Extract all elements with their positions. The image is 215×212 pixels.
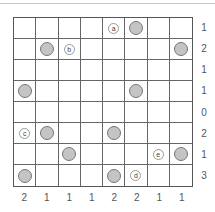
grid-cell[interactable] — [103, 39, 125, 60]
grid-cell[interactable]: b — [59, 39, 81, 60]
row-clue: 2 — [199, 128, 209, 139]
row-clue: 1 — [199, 64, 209, 75]
grid-cell[interactable] — [59, 102, 81, 123]
grid-cell[interactable]: c — [14, 123, 36, 144]
grid-cell[interactable] — [148, 123, 170, 144]
column-clue: 1 — [148, 192, 171, 203]
grid-cell[interactable] — [81, 18, 103, 39]
grid-cell[interactable] — [14, 144, 36, 165]
grid-cell[interactable] — [36, 81, 58, 102]
grid-cell[interactable] — [59, 81, 81, 102]
circled-letter-label: e — [153, 149, 164, 160]
row-clue: 0 — [199, 107, 209, 118]
column-clue: 2 — [126, 192, 149, 203]
gray-disk-icon — [107, 169, 121, 183]
grid-cell[interactable] — [148, 60, 170, 81]
gray-disk-icon — [18, 169, 32, 183]
gray-disk-icon — [40, 42, 54, 56]
grid-cell[interactable] — [81, 39, 103, 60]
grid-cell[interactable] — [103, 144, 125, 165]
grid-cell[interactable] — [170, 60, 192, 81]
grid-cell[interactable] — [36, 39, 58, 60]
row-clue: 3 — [199, 170, 209, 181]
grid-cell[interactable] — [170, 123, 192, 144]
column-clue: 2 — [13, 192, 36, 203]
grid-cell[interactable] — [14, 39, 36, 60]
grid-cell[interactable] — [125, 81, 147, 102]
grid-cell[interactable] — [170, 165, 192, 186]
column-clue: 2 — [103, 192, 126, 203]
grid-cell[interactable] — [125, 39, 147, 60]
grid-cell[interactable] — [59, 165, 81, 186]
grid-cell[interactable] — [103, 123, 125, 144]
grid-cell[interactable] — [14, 165, 36, 186]
row-clue: 2 — [199, 43, 209, 54]
circled-letter-label: a — [108, 23, 119, 34]
grid-cell[interactable] — [81, 81, 103, 102]
grid-cell[interactable] — [148, 81, 170, 102]
grid-cell[interactable] — [148, 18, 170, 39]
grid-cell[interactable] — [103, 102, 125, 123]
column-clue: 1 — [81, 192, 104, 203]
gray-disk-icon — [40, 126, 54, 140]
grid-cell[interactable] — [14, 102, 36, 123]
grid-cell[interactable] — [125, 18, 147, 39]
gray-disk-icon — [129, 21, 143, 35]
gray-disk-icon — [174, 42, 188, 56]
column-clue: 1 — [58, 192, 81, 203]
top-divider — [0, 3, 215, 4]
grid-cell[interactable] — [81, 123, 103, 144]
grid-cell[interactable] — [36, 60, 58, 81]
grid-cell[interactable] — [36, 102, 58, 123]
grid-cell[interactable] — [170, 102, 192, 123]
grid-cell[interactable] — [103, 81, 125, 102]
grid-cell[interactable] — [148, 102, 170, 123]
circled-letter-label: b — [64, 44, 75, 55]
grid-cell[interactable] — [125, 144, 147, 165]
grid-cell[interactable] — [59, 123, 81, 144]
grid-cell[interactable] — [59, 144, 81, 165]
grid-cell[interactable]: d — [125, 165, 147, 186]
gray-disk-icon — [107, 126, 121, 140]
grid-cell[interactable] — [81, 60, 103, 81]
grid-cell[interactable] — [103, 60, 125, 81]
grid-cell[interactable] — [14, 81, 36, 102]
row-clue: 1 — [199, 22, 209, 33]
grid-cell[interactable] — [148, 165, 170, 186]
column-clue: 1 — [171, 192, 194, 203]
grid-cell[interactable] — [170, 81, 192, 102]
gray-disk-icon — [129, 84, 143, 98]
grid-cell[interactable] — [170, 144, 192, 165]
grid-cell[interactable] — [14, 60, 36, 81]
grid-cell[interactable] — [170, 18, 192, 39]
gray-disk-icon — [174, 147, 188, 161]
grid-cell[interactable] — [81, 144, 103, 165]
circled-letter-label: d — [130, 170, 141, 181]
puzzle-grid: abced — [13, 17, 193, 187]
grid-cell[interactable] — [125, 123, 147, 144]
grid-cell[interactable] — [59, 18, 81, 39]
grid-cell[interactable] — [125, 60, 147, 81]
row-clue: 1 — [199, 149, 209, 160]
grid-cell[interactable]: a — [103, 18, 125, 39]
column-clue: 1 — [36, 192, 59, 203]
grid-cell[interactable] — [36, 18, 58, 39]
grid-cell[interactable] — [36, 165, 58, 186]
grid-cell[interactable] — [103, 165, 125, 186]
circled-letter-label: c — [19, 128, 30, 139]
grid-cell[interactable] — [36, 144, 58, 165]
gray-disk-icon — [18, 84, 32, 98]
grid-cell[interactable]: e — [148, 144, 170, 165]
grid-cell[interactable] — [170, 39, 192, 60]
grid-cell[interactable] — [14, 18, 36, 39]
grid-cell[interactable] — [81, 102, 103, 123]
grid-cell[interactable] — [148, 39, 170, 60]
grid-cell[interactable] — [36, 123, 58, 144]
grid-cell[interactable] — [59, 60, 81, 81]
grid-cell[interactable] — [125, 102, 147, 123]
gray-disk-icon — [62, 147, 76, 161]
grid-cell[interactable] — [81, 165, 103, 186]
row-clue: 1 — [199, 85, 209, 96]
